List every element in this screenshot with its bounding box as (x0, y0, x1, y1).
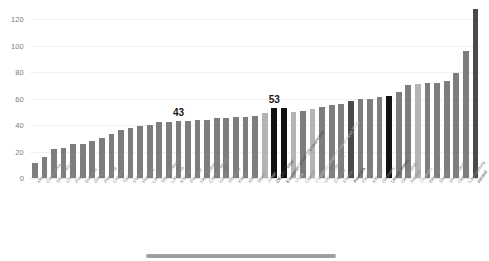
x-axis-labels: MexicoCosta RicaSouth AfricaChileRussiaB… (30, 180, 480, 242)
bar[interactable] (453, 73, 459, 178)
bar-slot: 53 (269, 6, 279, 178)
x-label-slot: Japan (260, 180, 270, 242)
horizontal-scrollbar[interactable] (146, 254, 336, 258)
x-label-slot: United Kingdom (317, 180, 327, 242)
bar-slot (241, 6, 251, 178)
bar[interactable] (262, 113, 268, 178)
bar-slot (59, 6, 69, 178)
bar-slot (432, 6, 442, 178)
x-label-slot: Iceland (365, 180, 375, 242)
x-label-slot: Austria (404, 180, 414, 242)
x-label-slot: Romania (97, 180, 107, 242)
x-label-slot: Israel (212, 180, 222, 242)
x-label-slot: Australia (346, 180, 356, 242)
bar[interactable] (367, 99, 373, 178)
x-label-slot: Slovenia (222, 180, 232, 242)
x-label-slot: Chile (59, 180, 69, 242)
bar-slot (193, 6, 203, 178)
x-label-slot: Russia (68, 180, 78, 242)
x-label-slot: Finland (356, 180, 366, 242)
x-label-slot: Poland (126, 180, 136, 242)
bar-slot (107, 6, 117, 178)
bar-slot (155, 6, 165, 178)
bar-slot (135, 6, 145, 178)
bar-slot (97, 6, 107, 178)
x-label-slot: Spain (250, 180, 260, 242)
bar-slot (40, 6, 50, 178)
bar-series: 4353 (30, 6, 480, 178)
x-label-slot: Latvia (145, 180, 155, 242)
bar-slot (375, 6, 385, 178)
x-label-slot: Croatia (107, 180, 117, 242)
x-label-slot: Cyprus (298, 180, 308, 242)
bar-slot (164, 6, 174, 178)
bar-slot (116, 6, 126, 178)
bar[interactable] (473, 9, 479, 178)
x-label-slot: OECD - Total (269, 180, 279, 242)
bar-slot (461, 6, 471, 178)
x-label-slot: Greece (87, 180, 97, 242)
bar-slot (423, 6, 433, 178)
y-axis-tick-label: 40 (15, 121, 24, 130)
bar-slot (260, 6, 270, 178)
x-label-slot: Korea (231, 180, 241, 242)
bar-slot (250, 6, 260, 178)
x-label-slot: Slovak Republic (155, 180, 165, 242)
bar-slot (30, 6, 40, 178)
y-axis-tick-label: 60 (15, 94, 24, 103)
x-label-slot: Canada (327, 180, 337, 242)
bar[interactable] (271, 108, 277, 178)
x-label-slot: United States (384, 180, 394, 242)
bar[interactable] (243, 117, 249, 178)
x-label-slot: Turkey (116, 180, 126, 242)
bar-slot (413, 6, 423, 178)
y-axis: 020406080100120 (0, 6, 28, 178)
x-label-slot: France (337, 180, 347, 242)
x-label-slot: Ireland (471, 180, 481, 242)
y-axis-tick-label: 80 (15, 68, 24, 77)
x-label-slot: Estonia (174, 180, 184, 242)
bar-slot (451, 6, 461, 178)
x-label-slot: New Zealand (193, 180, 203, 242)
bar[interactable] (300, 111, 306, 178)
x-label-slot: Sweden (432, 180, 442, 242)
bar-slot (126, 6, 136, 178)
bar[interactable] (425, 83, 431, 178)
bar[interactable] (223, 118, 229, 178)
x-label-slot: European Union (28 countries) (279, 180, 289, 242)
x-label-slot: Germany (375, 180, 385, 242)
bar-slot (365, 6, 375, 178)
bar[interactable] (444, 81, 450, 178)
bar-slot (68, 6, 78, 178)
x-label-slot: European Union (27 countries) 2020 (308, 180, 318, 242)
x-label-slot: Lithuania (164, 180, 174, 242)
bar[interactable] (463, 51, 469, 178)
x-label-slot: Denmark (413, 180, 423, 242)
bar-slot (404, 6, 414, 178)
y-axis-tick-label: 120 (11, 15, 24, 24)
bar[interactable] (32, 163, 38, 178)
x-label-slot: Malta (289, 180, 299, 242)
bar-slot (49, 6, 59, 178)
x-label-slot: Belgium (423, 180, 433, 242)
x-label-slot: South Africa (49, 180, 59, 242)
plot-area: 4353 (30, 6, 480, 178)
y-axis-tick-label: 100 (11, 41, 24, 50)
bar-slot (289, 6, 299, 178)
bar-slot (442, 6, 452, 178)
x-label-slot: Mexico (30, 180, 40, 242)
x-label-slot: Hungary (135, 180, 145, 242)
footer-strip (0, 251, 482, 261)
bar-slot (78, 6, 88, 178)
bar-slot (317, 6, 327, 178)
y-axis-tick-label: 0 (20, 174, 24, 183)
bar-slot (384, 6, 394, 178)
x-label-slot: Switzerland (442, 180, 452, 242)
bar[interactable] (252, 116, 258, 178)
bar[interactable] (434, 83, 440, 178)
bar-slot (87, 6, 97, 178)
bar[interactable] (377, 97, 383, 178)
bar-slot (212, 6, 222, 178)
x-label-slot: Netherlands (394, 180, 404, 242)
